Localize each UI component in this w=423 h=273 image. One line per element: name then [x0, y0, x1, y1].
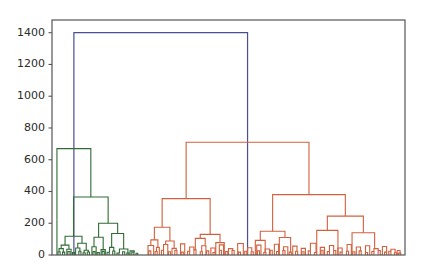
y-tick-label: 0: [38, 249, 45, 260]
y-tick-label: 800: [24, 122, 45, 133]
plot-background: [52, 20, 405, 255]
y-tick-label: 1000: [17, 90, 45, 101]
y-tick-label: 1400: [17, 27, 45, 38]
y-tick-label: 1200: [17, 58, 45, 69]
y-tick-label: 200: [24, 217, 45, 228]
y-tick-label: 600: [24, 154, 45, 165]
dendrogram-figure: 0200400600800100012001400: [0, 0, 423, 273]
dendrogram-plot: [0, 0, 423, 273]
y-tick-label: 400: [24, 185, 45, 196]
